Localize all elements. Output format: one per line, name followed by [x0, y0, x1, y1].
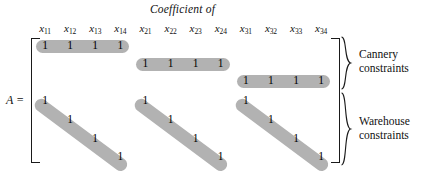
matrix-name-text: A =	[6, 93, 24, 107]
matrix-entry-one: 1	[164, 114, 178, 126]
column-header-x13: x13	[82, 22, 108, 36]
matrix-entry-one: 1	[314, 75, 328, 87]
matrix-entry-one: 1	[214, 151, 228, 163]
column-header-subscript: 12	[69, 27, 76, 36]
column-header-subscript: 22	[169, 27, 176, 36]
matrix-entry-one: 1	[38, 95, 52, 107]
matrix-entry-one: 1	[38, 40, 52, 52]
column-header-subscript: 34	[320, 27, 327, 36]
matrix-entry-one: 1	[264, 75, 278, 87]
warehouse-brace-icon	[340, 92, 356, 166]
matrix-entry-one: 1	[314, 151, 328, 163]
warehouse-label-line1: Warehouse	[359, 115, 410, 129]
column-header-subscript: 21	[144, 27, 151, 36]
matrix-figure: Coefficient of x11x12x13x14x21x22x23x24x…	[0, 0, 421, 175]
matrix-entry-one: 1	[88, 133, 102, 145]
matrix-entry-one: 1	[264, 114, 278, 126]
matrix-entry-one: 1	[239, 95, 253, 107]
matrix-entry-one: 1	[189, 133, 203, 145]
column-header-x12: x12	[57, 22, 83, 36]
matrix-entry-one: 1	[214, 58, 228, 70]
matrix-entry-one: 1	[138, 95, 152, 107]
matrix-name-label: A =	[6, 93, 24, 108]
matrix-entry-one: 1	[289, 75, 303, 87]
matrix-entry-one: 1	[289, 133, 303, 145]
cannery-brace-icon	[340, 36, 356, 90]
column-header-x22: x22	[158, 22, 184, 36]
column-header-subscript: 33	[295, 27, 302, 36]
column-header-subscript: 31	[245, 27, 252, 36]
matrix-entry-one: 1	[63, 40, 77, 52]
matrix-entry-one: 1	[63, 114, 77, 126]
matrix-entry-one: 1	[239, 75, 253, 87]
column-header-x33: x33	[283, 22, 309, 36]
cannery-label-line1: Cannery	[359, 48, 409, 62]
column-header-x31: x31	[233, 22, 259, 36]
matrix-entry-one: 1	[88, 40, 102, 52]
column-header-subscript: 23	[194, 27, 201, 36]
matrix-entry-one: 1	[164, 58, 178, 70]
warehouse-constraints-label: Warehouse constraints	[359, 115, 410, 142]
column-header-x23: x23	[183, 22, 209, 36]
column-header-x14: x14	[107, 22, 133, 36]
matrix-entry-one: 1	[138, 58, 152, 70]
matrix-entry-one: 1	[113, 40, 127, 52]
figure-title: Coefficient of	[0, 3, 421, 15]
matrix-entry-one: 1	[113, 151, 127, 163]
column-header-x32: x32	[258, 22, 284, 36]
column-header-subscript: 13	[94, 27, 101, 36]
column-header-subscript: 24	[220, 27, 227, 36]
warehouse-label-line2: constraints	[359, 129, 410, 143]
cannery-constraints-label: Cannery constraints	[359, 48, 409, 75]
column-header-x24: x24	[208, 22, 234, 36]
matrix-entry-one: 1	[189, 58, 203, 70]
column-header-x34: x34	[308, 22, 334, 36]
column-header-subscript: 11	[44, 27, 51, 36]
column-header-x11: x11	[32, 22, 58, 36]
column-header-subscript: 14	[119, 27, 126, 36]
cannery-label-line2: constraints	[359, 62, 409, 76]
matrix-bracket-right	[331, 38, 340, 163]
column-header-subscript: 32	[270, 27, 277, 36]
figure-title-text: Coefficient of	[150, 3, 215, 15]
column-header-x21: x21	[132, 22, 158, 36]
